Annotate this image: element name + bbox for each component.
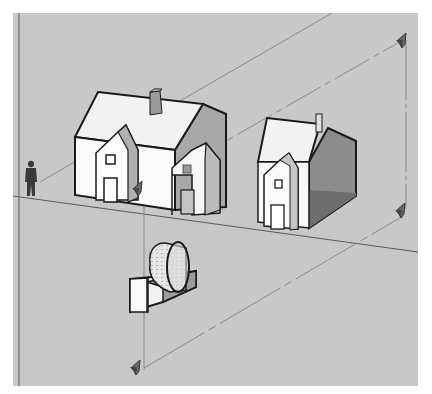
cylinder-block[interactable] [130,242,196,312]
window-icon [106,155,115,164]
window-icon [275,180,282,188]
section-plane-icon-bottom-left[interactable] [130,360,140,375]
human-figure[interactable] [25,161,37,196]
modeling-viewport[interactable]: 3D modeling viewport [13,13,418,386]
section-plane-icon-middle-right[interactable] [395,203,405,218]
door-icon [104,178,117,202]
chimney [316,114,322,132]
window-icon [183,165,191,173]
house-large[interactable] [75,89,226,215]
scene-canvas[interactable] [13,13,418,386]
section-plane-icon-top-right[interactable] [396,33,406,48]
house-small[interactable] [258,114,356,230]
door-icon [271,205,284,229]
door-icon [181,190,194,214]
